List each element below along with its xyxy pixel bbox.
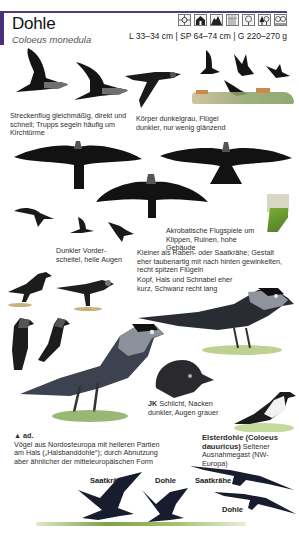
jackdaw-flight-illustration	[232, 52, 256, 78]
caption-forehead: Dunkler Vorder-scheitel, helle Augen	[56, 247, 126, 264]
jackdaw-flight-illustration	[70, 62, 130, 102]
jackdaw-juvenile-head-illustration	[154, 358, 214, 398]
measurements: L 33–34 cm | SP 64–74 cm | G 220–270 g	[129, 31, 287, 41]
open-woodland-icon	[242, 14, 255, 26]
parkland-icon	[274, 14, 287, 26]
caption-juvenile: JK Schlicht, Nacken dunkler, Augen graue…	[148, 400, 238, 417]
jackdaw-flight-illustration	[14, 205, 54, 227]
latin-name: Coloeus monedula	[12, 34, 91, 45]
jackdaw-perched-illustration	[56, 278, 118, 312]
building-illustration	[256, 88, 270, 93]
caption-daurian: Elsterdohle (Coloeus dauuricus) Seltener…	[202, 434, 292, 468]
caption-body: Körper dunkelgrau, Flügel dunkler, nur w…	[136, 115, 236, 132]
jackdaw-flight-illustration	[70, 217, 94, 235]
building-illustration	[196, 90, 208, 94]
jackdaw-flight-illustration	[266, 64, 290, 80]
label-jackdaw-left: Dohle	[155, 476, 176, 485]
rook-flight-illustration	[78, 472, 148, 524]
jackdaw-comparison-illustration	[214, 492, 296, 520]
jackdaw-perched-illustration	[8, 268, 58, 308]
jackdaw-underside-illustration	[96, 168, 208, 218]
header-rule	[4, 11, 287, 13]
jackdaw-flight-illustration	[10, 48, 72, 98]
jackdaw-comparison-illustration	[142, 488, 190, 524]
caption-adult: ▲ ad.Vögel aus Nordosteuropa mit hellere…	[14, 432, 164, 466]
town-crosshair-icon	[178, 14, 191, 26]
house-icon	[194, 14, 207, 26]
juvenile-text: Schlicht, Nacken dunkler, Augen grauer	[148, 399, 218, 417]
daurian-jackdaw-illustration	[234, 388, 296, 432]
species-title: Dohle	[12, 14, 55, 34]
jackdaw-flight-illustration	[198, 50, 222, 76]
jackdaw-adult-illustration	[20, 316, 164, 424]
caption-flight: Streckenflug gleichmäßig, direkt und sch…	[10, 112, 132, 138]
mixed-forest-icon	[258, 14, 271, 26]
habitat-icons	[178, 14, 287, 26]
caption-size: Kleiner als Raben- oder Saatkrähe; Gesta…	[137, 249, 287, 275]
rock-cliff-icon	[210, 14, 223, 26]
section-tab	[0, 11, 4, 45]
adult-text: Vögel aus Nordosteuropa mit helleren Par…	[14, 440, 159, 466]
jackdaw-flight-illustration	[108, 222, 134, 242]
farmland-icon	[226, 14, 239, 26]
jackdaw-flight-illustration	[125, 68, 185, 112]
